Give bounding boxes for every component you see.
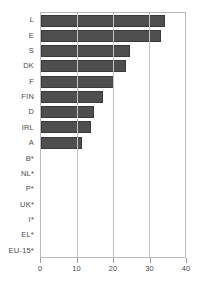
gridline-30 — [149, 13, 150, 257]
bar-d[interactable] — [41, 106, 94, 118]
y-label-eu-15: EU-15* — [0, 243, 37, 258]
y-label-d: D — [0, 104, 37, 119]
x-ticklabel-40: 40 — [182, 264, 190, 273]
bar-a[interactable] — [41, 137, 82, 149]
bar-l[interactable] — [41, 15, 165, 27]
x-tick-40 — [186, 258, 187, 263]
y-label-f: F — [0, 74, 37, 89]
x-axis-tick-labels: 010203040 — [40, 264, 186, 278]
y-label-irl: IRL — [0, 120, 37, 135]
x-tick-30 — [150, 258, 151, 263]
bar-irl[interactable] — [41, 121, 91, 133]
bar-chart: LESDKFFINDIRLAB*NL*P*UK*I*EL*EU-15* 0102… — [0, 0, 197, 290]
x-ticklabel-0: 0 — [38, 264, 42, 273]
gridline-10 — [77, 13, 78, 257]
y-label-s: S — [0, 43, 37, 58]
x-tick-0 — [40, 258, 41, 263]
bar-fin[interactable] — [41, 91, 103, 103]
x-ticklabel-10: 10 — [72, 264, 80, 273]
x-ticklabel-20: 20 — [109, 264, 117, 273]
plot-area — [40, 12, 186, 258]
y-label-l: L — [0, 12, 37, 27]
x-tick-20 — [113, 258, 114, 263]
y-label-e: E — [0, 27, 37, 42]
x-ticklabel-30: 30 — [145, 264, 153, 273]
y-label-fin: FIN — [0, 89, 37, 104]
bar-e[interactable] — [41, 30, 161, 42]
y-label-a: A — [0, 135, 37, 150]
y-label-nl: NL* — [0, 166, 37, 181]
y-label-b: B* — [0, 150, 37, 165]
gridline-20 — [113, 13, 114, 257]
bar-s[interactable] — [41, 45, 130, 57]
y-label-p: P* — [0, 181, 37, 196]
y-label-uk: UK* — [0, 197, 37, 212]
y-label-dk: DK — [0, 58, 37, 73]
y-axis-category-labels: LESDKFFINDIRLAB*NL*P*UK*I*EL*EU-15* — [0, 12, 37, 258]
y-label-el: EL* — [0, 227, 37, 242]
y-label-i: I* — [0, 212, 37, 227]
x-tick-10 — [77, 258, 78, 263]
